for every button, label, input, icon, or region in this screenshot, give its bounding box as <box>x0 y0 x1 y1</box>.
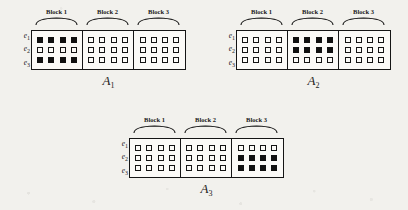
figure-name-subscript: 1 <box>110 81 114 90</box>
row-label-e1: e1 <box>122 140 129 149</box>
cell-empty <box>158 155 164 161</box>
cell-filled <box>293 37 299 43</box>
cell-empty <box>220 165 226 171</box>
blocks-frame <box>129 138 284 178</box>
cell-empty <box>186 165 192 171</box>
cell-empty <box>327 57 333 63</box>
cell-empty <box>88 37 94 43</box>
cell-row <box>290 57 336 63</box>
cell-row <box>239 57 285 63</box>
row-label-subscript: 3 <box>232 62 235 68</box>
cell-row <box>132 165 178 171</box>
block-2 <box>83 31 134 69</box>
row-label-subscript: 3 <box>27 62 30 68</box>
cell-empty <box>88 57 94 63</box>
block-caption-1: Block 1 <box>31 9 82 30</box>
cell-empty <box>158 165 164 171</box>
cell-empty <box>276 37 282 43</box>
cell-empty <box>345 37 351 43</box>
block-brace-icon <box>342 17 385 26</box>
cell-row <box>341 37 388 43</box>
cell-row <box>85 57 131 63</box>
cell-empty <box>169 165 175 171</box>
cell-empty <box>162 57 168 63</box>
cell-empty <box>209 145 215 151</box>
cell-row <box>234 155 281 161</box>
block-label: Block 3 <box>353 9 374 16</box>
cell-filled <box>48 37 54 43</box>
cell-empty <box>265 57 271 63</box>
block-3 <box>339 31 390 69</box>
cell-empty <box>197 155 203 161</box>
cell-row <box>234 145 281 151</box>
cell-empty <box>140 57 146 63</box>
block-caption-1: Block 1 <box>236 9 287 30</box>
cell-empty <box>242 37 248 43</box>
cell-empty <box>140 37 146 43</box>
cell-empty <box>378 57 384 63</box>
row-label-subscript: 3 <box>125 170 128 176</box>
cell-empty <box>111 37 117 43</box>
cell-empty <box>173 57 179 63</box>
block-brace-icon <box>240 17 283 26</box>
cell-empty <box>209 155 215 161</box>
cell-empty <box>265 47 271 53</box>
row-label-e3: e3 <box>24 59 31 68</box>
block-caption-3: Block 3 <box>231 117 282 138</box>
matrix-area: e1e2e3Block 1Block 2Block 3 <box>129 138 284 178</box>
block-brace-icon <box>184 125 227 134</box>
cell-empty <box>99 57 105 63</box>
block-caption-2: Block 2 <box>287 9 338 30</box>
cell-empty <box>71 47 77 53</box>
cell-row <box>34 47 80 53</box>
cell-row <box>34 37 80 43</box>
cell-row <box>290 47 336 53</box>
cell-empty <box>197 165 203 171</box>
cell-row <box>290 37 336 43</box>
block-caption-3: Block 3 <box>133 9 184 30</box>
cell-empty <box>345 57 351 63</box>
block-label: Block 3 <box>148 9 169 16</box>
row-label-e1: e1 <box>24 32 31 41</box>
cell-empty <box>253 47 259 53</box>
cell-empty <box>135 155 141 161</box>
matrix-area: e1e2e3Block 1Block 2Block 3 <box>31 30 186 70</box>
row-labels: e1e2e3 <box>223 30 236 70</box>
row-label-subscript: 1 <box>125 143 128 149</box>
block-brace-icon <box>235 125 278 134</box>
figure-a2: e1e2e3Block 1Block 2Block 3A2 <box>236 30 391 70</box>
figure-name: A3 <box>129 182 284 198</box>
cell-empty <box>146 155 152 161</box>
cell-row <box>136 57 183 63</box>
cell-empty <box>99 37 105 43</box>
blocks-frame <box>31 30 186 70</box>
cell-empty <box>135 165 141 171</box>
cell-row <box>132 155 178 161</box>
block-1 <box>130 139 181 177</box>
row-label-e3: e3 <box>122 167 129 176</box>
cell-empty <box>140 47 146 53</box>
figure-name-subscript: 3 <box>208 189 212 198</box>
cell-filled <box>316 47 322 53</box>
cell-empty <box>356 47 362 53</box>
cell-empty <box>276 57 282 63</box>
cell-empty <box>249 145 255 151</box>
cell-filled <box>37 57 43 63</box>
cell-empty <box>253 57 259 63</box>
cell-empty <box>378 37 384 43</box>
row-label-e2: e2 <box>24 45 31 54</box>
block-label: Block 3 <box>246 117 267 124</box>
cell-empty <box>173 37 179 43</box>
cell-filled <box>71 57 77 63</box>
cell-empty <box>367 57 373 63</box>
cell-empty <box>209 165 215 171</box>
cell-empty <box>345 47 351 53</box>
row-label-subscript: 2 <box>232 48 235 54</box>
cell-row <box>85 37 131 43</box>
row-labels: e1e2e3 <box>116 138 129 178</box>
cell-empty <box>169 155 175 161</box>
cell-empty <box>135 145 141 151</box>
cell-row <box>183 145 229 151</box>
cell-empty <box>242 57 248 63</box>
cell-filled <box>327 37 333 43</box>
